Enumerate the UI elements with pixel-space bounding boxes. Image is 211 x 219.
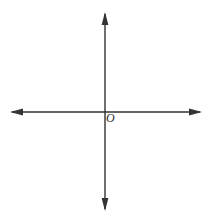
axes-drawing bbox=[0, 0, 211, 219]
coordinate-axes-figure: O bbox=[0, 0, 211, 219]
x-axis-right-arrowhead-icon bbox=[189, 109, 202, 116]
y-axis-bottom-arrowhead-icon bbox=[102, 198, 109, 211]
x-axis-left-arrowhead-icon bbox=[10, 109, 23, 116]
origin-label: O bbox=[106, 112, 115, 125]
y-axis-top-arrowhead-icon bbox=[102, 12, 109, 25]
